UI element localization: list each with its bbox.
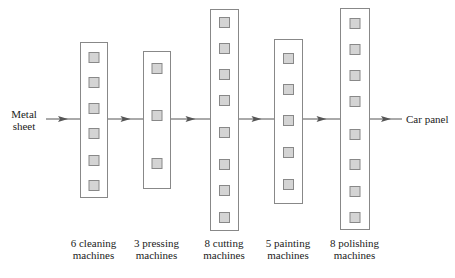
- machine-icon: [350, 160, 360, 170]
- stage-1-group: [81, 43, 108, 198]
- input-label: Metal sheet: [4, 108, 44, 132]
- connector-arrow-3: [239, 116, 274, 122]
- machine-icon: [284, 180, 294, 190]
- machine-icon: [89, 104, 99, 114]
- input-label-line1: Metal: [4, 108, 44, 120]
- machine-icon: [220, 186, 230, 196]
- output-arrow: [370, 116, 402, 122]
- stage-3-group: [211, 10, 239, 231]
- input-label-line2: sheet: [4, 120, 44, 132]
- connector-arrow-2: [171, 116, 210, 122]
- machine-icon: [152, 111, 162, 121]
- connector-arrow-4: [303, 116, 340, 122]
- output-label: Car panel: [406, 113, 448, 125]
- machine-icon: [220, 160, 230, 170]
- machine-icon: [220, 70, 230, 80]
- machine-icon: [152, 159, 162, 169]
- stage-box: [81, 43, 108, 198]
- stage-4-group: [275, 40, 303, 204]
- stage-5-group: [341, 9, 370, 230]
- stage-label-line1: 8 polishing: [315, 237, 395, 249]
- machine-icon: [89, 53, 99, 63]
- stage-label-line2: machines: [315, 249, 395, 261]
- stage-label-5: 8 polishingmachines: [315, 237, 395, 261]
- input-arrow: [46, 116, 80, 122]
- machine-icon: [350, 130, 360, 140]
- machine-icon: [350, 213, 360, 223]
- machine-icon: [284, 54, 294, 64]
- machine-icon: [89, 181, 99, 191]
- stage-box: [211, 10, 239, 231]
- machine-icon: [350, 19, 360, 29]
- stage-2-group: [144, 52, 171, 189]
- machine-icon: [220, 128, 230, 138]
- machine-icon: [89, 156, 99, 166]
- machine-icon: [220, 96, 230, 106]
- machine-icon: [350, 187, 360, 197]
- machine-icon: [220, 18, 230, 28]
- machine-icon: [220, 213, 230, 223]
- machine-icon: [152, 64, 162, 74]
- connector-arrow-1: [108, 116, 143, 122]
- machine-icon: [350, 45, 360, 55]
- machine-icon: [89, 129, 99, 139]
- machine-icon: [220, 44, 230, 54]
- machine-icon: [284, 85, 294, 95]
- machine-icon: [284, 148, 294, 158]
- machine-icon: [350, 97, 360, 107]
- machine-icon: [89, 78, 99, 88]
- machine-icon: [350, 71, 360, 81]
- machine-icon: [284, 116, 294, 126]
